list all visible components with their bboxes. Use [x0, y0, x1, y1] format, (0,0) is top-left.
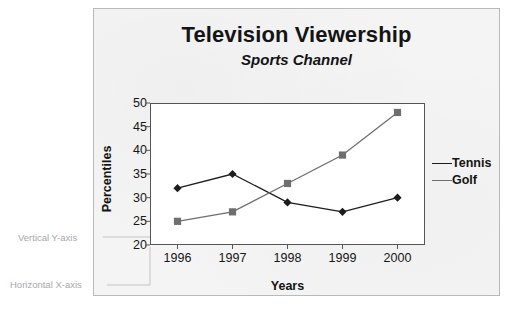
annotation-horizontal-x-axis: Horizontal X-axis [10, 280, 82, 290]
annotation-vertical-y-axis: Vertical Y-axis [18, 233, 77, 243]
scanned-page: Television Viewership Sports Channel 202… [0, 0, 512, 314]
annotation-leader-lines [0, 0, 512, 314]
